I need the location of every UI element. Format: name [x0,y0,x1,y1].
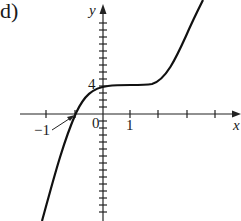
cubic-curve [42,0,203,221]
origin-label: 0 [92,116,100,131]
chart: d) y x 4 0 1 −1 [0,0,241,221]
panel-label: d) [0,0,18,22]
y-tick-label-4: 4 [88,77,96,92]
x-axis-label: x [233,118,240,133]
plot-svg [0,0,241,221]
x-intercept-label: −1 [34,123,50,138]
x-tick-label-1: 1 [126,118,134,133]
y-axis-arrow-icon [100,4,107,14]
y-axis-label: y [89,3,96,18]
